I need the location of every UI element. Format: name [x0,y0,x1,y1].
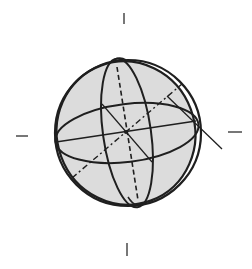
diagram-canvas [0,0,252,269]
sphere-diagram [0,0,252,269]
center-point [124,130,128,134]
